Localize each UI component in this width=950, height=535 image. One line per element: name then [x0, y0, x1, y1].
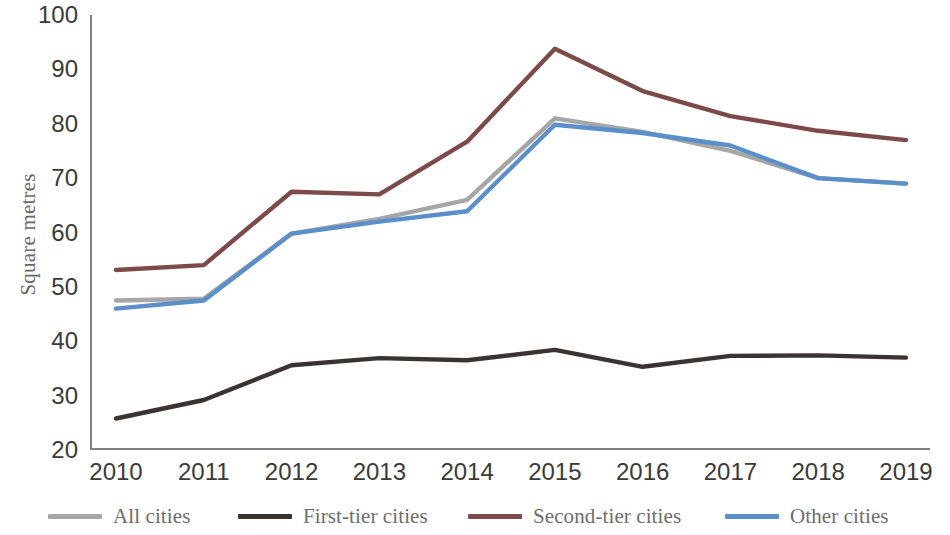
legend-label: First-tier cities [303, 504, 428, 529]
y-tick-label: 50 [16, 273, 78, 301]
x-tick-label: 2017 [685, 458, 775, 486]
legend-item[interactable]: Other cities [725, 504, 889, 529]
y-tick-label: 30 [16, 382, 78, 410]
legend-swatch-icon [48, 514, 102, 519]
legend-swatch-icon [725, 514, 779, 519]
legend-label: Other cities [790, 504, 889, 529]
y-tick-label: 90 [16, 55, 78, 83]
legend-item[interactable]: Second-tier cities [468, 504, 681, 529]
legend-item[interactable]: All cities [48, 504, 190, 529]
legend-label: All cities [113, 504, 190, 529]
x-axis-ticks: 2010201120122013201420152016201720182019 [90, 458, 930, 492]
y-tick-label: 80 [16, 110, 78, 138]
y-tick-label: 20 [16, 436, 78, 464]
x-tick-label: 2015 [510, 458, 600, 486]
legend-swatch-icon [468, 514, 522, 519]
series-lines [90, 15, 930, 450]
chart-legend: All citiesFirst-tier citiesSecond-tier c… [0, 498, 950, 535]
y-tick-label: 40 [16, 327, 78, 355]
plot-area: 2030405060708090100 20102011201220132014… [90, 15, 930, 450]
x-tick-label: 2011 [159, 458, 249, 486]
x-tick-label: 2016 [598, 458, 688, 486]
x-tick-label: 2019 [861, 458, 950, 486]
series-line [116, 118, 906, 300]
x-tick-label: 2012 [247, 458, 337, 486]
legend-item[interactable]: First-tier cities [238, 504, 428, 529]
y-tick-label: 60 [16, 219, 78, 247]
legend-label: Second-tier cities [533, 504, 681, 529]
legend-swatch-icon [238, 514, 292, 519]
x-tick-label: 2018 [773, 458, 863, 486]
series-line [116, 125, 906, 309]
x-tick-label: 2010 [71, 458, 161, 486]
line-chart: Square metres 2030405060708090100 201020… [0, 0, 950, 535]
y-tick-label: 70 [16, 164, 78, 192]
series-line [116, 350, 906, 419]
x-tick-label: 2013 [334, 458, 424, 486]
x-tick-label: 2014 [422, 458, 512, 486]
y-tick-label: 100 [16, 1, 78, 29]
